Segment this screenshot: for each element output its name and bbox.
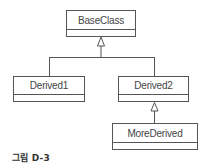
uml-diagram: BaseClass Derived1 Derived2 MoreDerived … [0, 0, 210, 165]
class-box-derived2: Derived2 [118, 76, 189, 102]
figure-caption: 그림 D-3 [12, 151, 50, 164]
class-box-morederived: MoreDerived [112, 123, 198, 150]
class-attributes [67, 30, 135, 36]
inheritance-arrow-base [98, 37, 105, 57]
class-attributes [14, 95, 84, 101]
inheritance-arrow-derived2 [151, 103, 158, 124]
class-name: MoreDerived [113, 124, 197, 143]
class-name: BaseClass [67, 11, 135, 30]
class-attributes [119, 95, 188, 101]
class-name: Derived2 [119, 77, 188, 95]
class-box-derived1: Derived1 [13, 76, 85, 102]
class-name: Derived1 [14, 77, 84, 95]
class-box-baseclass: BaseClass [66, 10, 136, 37]
class-attributes [113, 143, 197, 149]
